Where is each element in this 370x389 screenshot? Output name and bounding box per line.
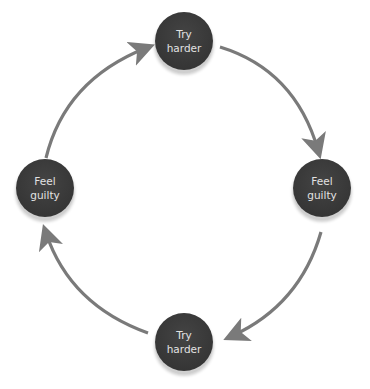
node-try-harder-bottom: Try harder [155,313,213,371]
node-label-line1: Try [176,27,191,41]
node-feel-guilty-right: Feel guilty [293,159,351,217]
node-label-line1: Try [176,328,191,342]
node-try-harder-top: Try harder [155,12,213,70]
node-label-line2: harder [167,342,202,356]
node-label-line2: guilty [30,188,60,202]
arrow-left-to-top [46,48,146,158]
node-label-line1: Feel [34,174,55,188]
node-label-line1: Feel [311,174,332,188]
arrow-top-to-right [220,47,318,150]
arrow-bottom-to-left [46,233,148,333]
node-label-line2: harder [167,41,202,55]
node-feel-guilty-left: Feel guilty [16,159,74,217]
node-label-line2: guilty [307,188,337,202]
arrow-right-to-bottom [232,232,321,336]
